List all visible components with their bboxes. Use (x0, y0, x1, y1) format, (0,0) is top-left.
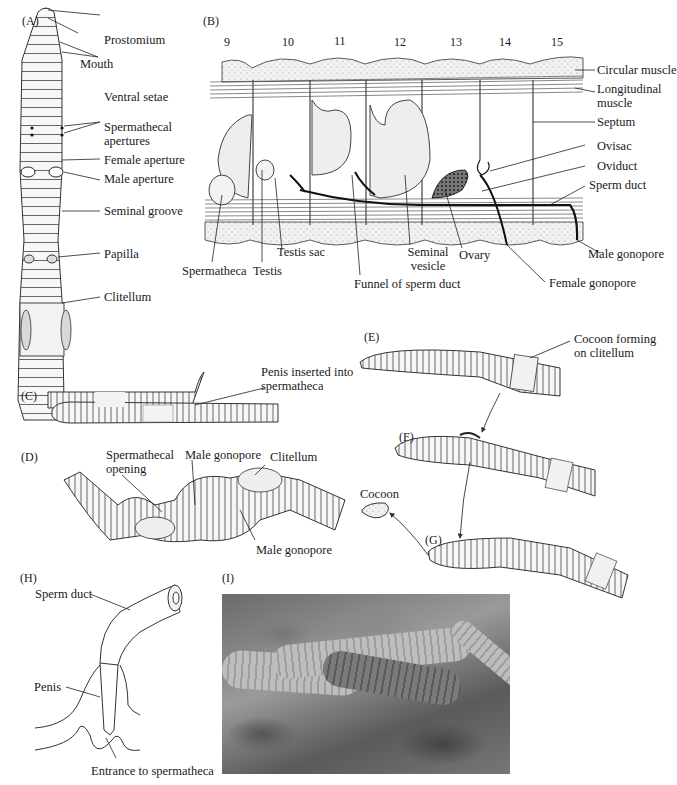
label-cocoon: Cocoon (360, 487, 399, 501)
label-spermatheca: Spermatheca (182, 264, 247, 278)
label-ovary: Ovary (459, 248, 490, 262)
segment-number: 11 (334, 34, 346, 49)
label-testis-sac: Testis sac (277, 245, 325, 259)
label-spermathecal-opening: Spermathecal opening (106, 448, 186, 476)
label-male-gonopore-bottom: Male gonopore (256, 543, 332, 557)
segment-number: 9 (224, 35, 230, 50)
panel-c-worms (48, 372, 278, 423)
label-papilla: Papilla (104, 247, 139, 261)
segment-number: 12 (394, 35, 406, 50)
panel-g-tag: (G) (425, 533, 442, 548)
panel-a-tag: (A) (22, 14, 39, 29)
panel-b-section (205, 57, 600, 282)
label-spermathecal-apertures: Spermathecal apertures (104, 120, 199, 148)
label-ventral-setae: Ventral setae (104, 90, 168, 104)
label-male-gonopore-top: Male gonopore (185, 448, 261, 462)
label-male-aperture: Male aperture (104, 172, 174, 186)
label-sperm-duct-h: Sperm duct (35, 587, 92, 601)
label-funnel-of-sperm-duct: Funnel of sperm duct (354, 277, 461, 291)
label-clitellum-d: Clitellum (270, 450, 317, 464)
label-ovisac: Ovisac (597, 139, 632, 153)
label-seminal-vesicle: Seminal vesicle (404, 245, 452, 273)
label-male-gonopore: Male gonopore (588, 247, 664, 261)
label-penis: Penis (34, 680, 61, 694)
label-sperm-duct: Sperm duct (589, 178, 646, 192)
segment-number: 15 (551, 35, 563, 50)
panel-d-tag: (D) (21, 450, 38, 465)
segment-number: 14 (499, 35, 511, 50)
segment-number: 13 (450, 35, 462, 50)
label-oviduct: Oviduct (597, 159, 637, 173)
label-seminal-groove: Seminal groove (104, 204, 183, 218)
label-septum: Septum (597, 115, 635, 129)
panel-h-tag: (H) (20, 571, 37, 586)
label-prostomium: Prostomium (104, 33, 165, 47)
segment-number: 10 (282, 35, 294, 50)
label-circular-muscle: Circular muscle (597, 63, 677, 77)
label-mouth: Mouth (80, 57, 113, 71)
panel-c-tag: (C) (21, 389, 37, 404)
label-longitudinal-muscle: Longitudinal muscle (597, 82, 673, 110)
panel-h-penis-detail (35, 585, 182, 758)
label-testis: Testis (253, 264, 282, 278)
label-penis-inserted: Penis inserted into spermatheca (261, 365, 361, 393)
panel-b-tag: (B) (203, 14, 219, 29)
panel-i-tag: (I) (222, 571, 234, 586)
panel-efg-worms (360, 341, 628, 598)
label-female-gonopore: Female gonopore (549, 276, 636, 290)
label-female-aperture: Female aperture (104, 153, 185, 167)
label-entrance-to-spermatheca: Entrance to spermatheca (91, 764, 214, 778)
panel-e-tag: (E) (364, 330, 379, 345)
panel-i-photograph (222, 594, 510, 774)
label-clitellum: Clitellum (104, 290, 151, 304)
panel-f-tag: (F) (399, 430, 414, 445)
label-cocoon-forming: Cocoon forming on clitellum (574, 332, 666, 360)
